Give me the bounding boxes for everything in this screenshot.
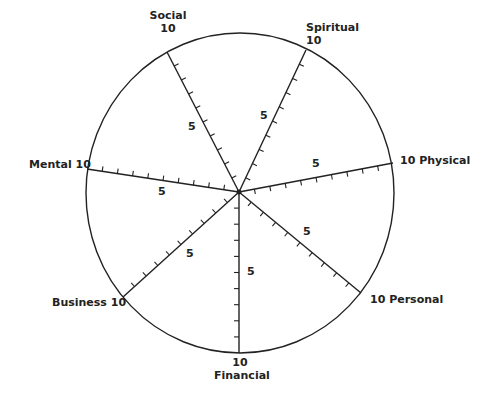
mid-label-business: 5 xyxy=(186,248,194,260)
tick-mark xyxy=(210,134,214,136)
mid-label-mental: 5 xyxy=(158,186,166,198)
tick-mark xyxy=(259,149,264,151)
label-personal: 10 Personal xyxy=(370,293,443,306)
tick-mark xyxy=(252,164,257,166)
label-financial-name: Financial xyxy=(214,369,266,382)
mid-label-spiritual: 5 xyxy=(260,110,268,122)
tick-mark xyxy=(225,162,229,164)
tick-mark xyxy=(279,107,284,109)
tick-mark xyxy=(166,251,169,255)
tick-mark xyxy=(212,209,215,213)
label-physical: 10 Physical xyxy=(400,154,470,167)
tick-mark xyxy=(378,166,379,171)
tick-mark xyxy=(217,148,221,150)
label-social: Social 10 xyxy=(146,9,190,35)
tick-mark xyxy=(193,180,194,185)
tick-mark xyxy=(232,176,236,178)
tick-mark xyxy=(178,241,181,245)
tick-mark xyxy=(297,243,300,247)
tick-mark xyxy=(154,262,157,266)
wheel-diagram xyxy=(0,0,485,401)
tick-mark xyxy=(346,283,349,287)
tick-mark xyxy=(286,93,291,95)
mid-label-social: 5 xyxy=(188,121,196,133)
tick-mark xyxy=(246,178,251,180)
tick-mark xyxy=(209,182,210,187)
tick-mark xyxy=(178,178,179,183)
label-financial: 10 Financial xyxy=(214,356,266,382)
tick-mark xyxy=(189,230,192,234)
tick-mark xyxy=(148,173,149,178)
center-point xyxy=(237,190,241,194)
label-financial-value: 10 xyxy=(214,356,266,369)
mid-label-personal: 5 xyxy=(303,226,311,238)
label-spiritual: Spiritual 10 xyxy=(306,21,359,47)
tick-mark xyxy=(189,92,193,94)
tick-mark xyxy=(143,272,146,276)
mid-label-physical: 5 xyxy=(312,158,320,170)
tick-mark xyxy=(272,222,275,226)
tick-mark xyxy=(131,283,134,287)
label-social-value: 10 xyxy=(146,22,190,35)
tick-mark xyxy=(266,135,271,137)
label-business: Business 10 xyxy=(52,296,126,309)
tick-mark xyxy=(224,199,227,203)
label-social-name: Social xyxy=(146,9,190,22)
tick-mark xyxy=(254,189,255,194)
tick-mark xyxy=(273,121,278,123)
tick-mark xyxy=(285,183,286,188)
tick-mark xyxy=(181,78,185,80)
label-spiritual-value: 10 xyxy=(306,34,359,47)
tick-mark xyxy=(117,169,118,174)
tick-mark xyxy=(163,176,164,181)
tick-mark xyxy=(316,178,317,183)
tick-mark xyxy=(201,220,204,224)
tick-mark xyxy=(196,106,200,108)
tick-mark xyxy=(301,180,302,185)
label-spiritual-name: Spiritual xyxy=(306,21,359,34)
label-mental: Mental 10 xyxy=(29,158,91,171)
mid-label-financial: 5 xyxy=(247,266,255,278)
tick-mark xyxy=(309,253,312,257)
tick-mark xyxy=(203,120,207,122)
tick-mark xyxy=(347,172,348,177)
tick-mark xyxy=(174,64,178,66)
tick-mark xyxy=(285,232,288,236)
tick-mark xyxy=(102,166,103,171)
tick-mark xyxy=(224,185,225,190)
tick-mark xyxy=(333,273,336,277)
tick-mark xyxy=(362,169,363,174)
tick-mark xyxy=(260,212,263,216)
tick-mark xyxy=(331,175,332,180)
tick-mark xyxy=(248,202,251,206)
tick-mark xyxy=(299,64,304,66)
tick-mark xyxy=(321,263,324,267)
tick-mark xyxy=(270,186,271,191)
tick-mark xyxy=(293,78,298,80)
tick-mark xyxy=(133,171,134,176)
